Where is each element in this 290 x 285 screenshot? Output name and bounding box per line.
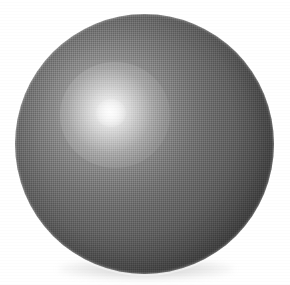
figure-canvas bbox=[0, 0, 290, 285]
figure-stage bbox=[0, 0, 290, 285]
sphere bbox=[15, 14, 274, 274]
